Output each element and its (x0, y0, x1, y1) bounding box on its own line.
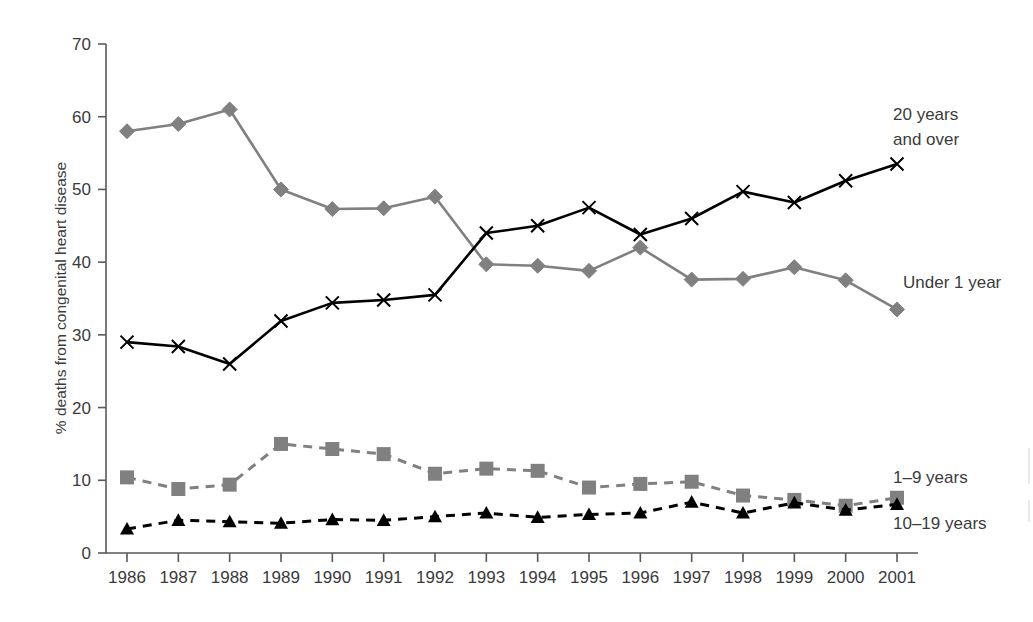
series-label-1-9-years: 1–9 years (893, 468, 968, 487)
data-point-square-marker (325, 442, 339, 456)
data-point-diamond-marker (222, 102, 237, 117)
x-tick-label: 1998 (724, 568, 762, 587)
data-point-x-marker (839, 174, 852, 187)
chart-series (120, 102, 905, 535)
data-point-square-marker (582, 481, 596, 495)
y-tick-label: 30 (72, 326, 91, 345)
data-point-diamond-marker (530, 258, 545, 273)
data-point-diamond-marker (890, 302, 905, 317)
axis-lines (106, 44, 918, 553)
series-line (127, 444, 897, 506)
data-point-triangle-marker (685, 495, 699, 508)
data-point-diamond-marker (787, 260, 802, 275)
data-point-square-marker (685, 475, 699, 489)
data-point-diamond-marker (274, 182, 289, 197)
x-axis-ticks: 1986198719881989199019911992199319941995… (108, 553, 916, 587)
data-point-x-marker (891, 157, 904, 170)
y-axis-ticks: 010203040506070 (72, 35, 106, 563)
x-tick-label: 1997 (673, 568, 711, 587)
x-tick-label: 1991 (365, 568, 403, 587)
series-line (127, 109, 897, 309)
line-chart: 010203040506070 198619871988198919901991… (0, 0, 1033, 622)
chart-container: 010203040506070 198619871988198919901991… (0, 0, 1033, 622)
data-point-diamond-marker (325, 202, 340, 217)
data-point-diamond-marker (736, 271, 751, 286)
x-tick-label: 1987 (159, 568, 197, 587)
y-tick-label: 60 (72, 108, 91, 127)
data-point-x-marker (685, 212, 698, 225)
series-labels: 20 yearsand overUnder 1 year1–9 years10–… (893, 105, 1002, 533)
series-line (127, 502, 897, 529)
x-tick-label: 1988 (211, 568, 249, 587)
data-point-diamond-marker (582, 263, 597, 278)
data-point-diamond-marker (633, 240, 648, 255)
y-tick-label: 0 (82, 544, 91, 563)
x-tick-label: 2000 (827, 568, 865, 587)
data-point-square-marker (223, 478, 237, 492)
series-label-under-1-year: Under 1 year (903, 273, 1002, 292)
data-point-diamond-marker (171, 116, 186, 131)
data-point-diamond-marker (376, 201, 391, 216)
x-tick-label: 1986 (108, 568, 146, 587)
x-tick-label: 1990 (313, 568, 351, 587)
x-tick-label: 1993 (467, 568, 505, 587)
data-point-x-marker (583, 201, 596, 214)
y-axis-title: % deaths from congenital heart disease (52, 162, 69, 434)
y-tick-label: 70 (72, 35, 91, 54)
y-tick-label: 50 (72, 180, 91, 199)
y-tick-label: 20 (72, 399, 91, 418)
series-10-19-years (120, 495, 904, 535)
series-label-20-years-and-over-line2: and over (893, 130, 959, 149)
x-tick-label: 1989 (262, 568, 300, 587)
y-tick-label: 10 (72, 471, 91, 490)
data-point-square-marker (120, 470, 134, 484)
series-1-9-years (120, 437, 904, 513)
x-tick-label: 2001 (878, 568, 916, 587)
data-point-square-marker (377, 447, 391, 461)
data-point-square-marker (171, 482, 185, 496)
series-under-1-year (120, 102, 905, 317)
data-point-square-marker (428, 467, 442, 481)
data-point-square-marker (736, 489, 750, 503)
data-point-square-marker (274, 437, 288, 451)
y-tick-label: 40 (72, 253, 91, 272)
data-point-square-marker (531, 464, 545, 478)
x-tick-label: 1999 (775, 568, 813, 587)
chart-axes (106, 44, 918, 553)
x-tick-label: 1994 (519, 568, 557, 587)
x-tick-label: 1995 (570, 568, 608, 587)
data-point-square-marker (479, 462, 493, 476)
page-edge-artifact (1028, 448, 1030, 484)
x-tick-label: 1992 (416, 568, 454, 587)
data-point-x-marker (634, 228, 647, 241)
data-point-x-marker (223, 357, 236, 370)
x-tick-label: 1996 (621, 568, 659, 587)
page-edge-artifact-lower (1028, 500, 1030, 522)
data-point-diamond-marker (684, 272, 699, 287)
data-point-square-marker (633, 477, 647, 491)
data-point-x-marker (275, 315, 288, 328)
series-label-10-19-years: 10–19 years (893, 514, 987, 533)
data-point-diamond-marker (120, 124, 135, 139)
series-label-20-years-and-over-line1: 20 years (893, 105, 958, 124)
data-point-diamond-marker (838, 273, 853, 288)
